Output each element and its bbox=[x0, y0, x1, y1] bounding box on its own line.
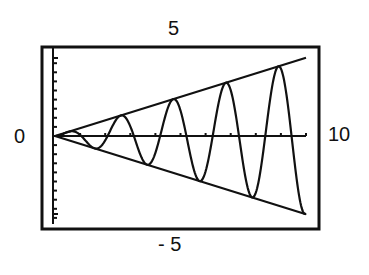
axes bbox=[53, 48, 306, 224]
upper-envelope-line bbox=[55, 58, 306, 136]
oscillating-curve bbox=[55, 66, 306, 214]
plot-area bbox=[0, 0, 369, 275]
